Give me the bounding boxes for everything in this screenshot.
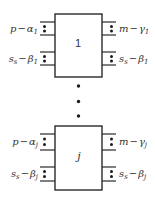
block-j-port-right-bottom: ss−βj — [102, 167, 147, 181]
vertical-ellipsis — [77, 84, 80, 117]
port-label: p−αj — [12, 136, 39, 149]
port-label: ss−β1 — [119, 53, 148, 66]
port-label: ss−βj — [119, 168, 147, 181]
block-j-port-left-bottom: ss−βj — [11, 167, 55, 181]
block-1-port-right-bottom: ss−β1 — [102, 52, 148, 66]
block-j: j p−αj ss−βj m−γj — [11, 126, 148, 190]
block-1-port-right-top: m−γ1 — [102, 22, 149, 36]
block-1-port-left-top: p−α1 — [10, 22, 55, 36]
port-label: m−γ1 — [119, 23, 149, 36]
port-label: p−α1 — [10, 23, 38, 36]
port-label: ss−β1 — [9, 53, 38, 66]
block-1-port-left-bottom: ss−β1 — [9, 52, 55, 66]
block-j-port-left-top: p−αj — [12, 134, 55, 150]
block-diagram: 1 p−α1 ss−β1 m−γ1 — [0, 0, 155, 198]
port-label: ss−βj — [11, 168, 39, 181]
block-j-port-right-top: m−γj — [102, 134, 148, 150]
block-1: 1 p−α1 ss−β1 m−γ1 — [9, 14, 150, 77]
block-1-label: 1 — [75, 37, 81, 49]
port-label: m−γj — [119, 136, 148, 149]
